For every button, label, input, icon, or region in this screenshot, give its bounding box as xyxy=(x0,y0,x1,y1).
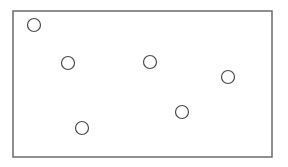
circles-group xyxy=(28,19,235,135)
circle-node-4 xyxy=(222,71,235,84)
circle-node-5 xyxy=(176,106,189,119)
circle-node-6 xyxy=(76,122,89,135)
circle-node-3 xyxy=(144,56,157,69)
circle-node-2 xyxy=(62,57,75,70)
diagram-canvas xyxy=(0,0,288,167)
frame-rectangle xyxy=(13,11,272,157)
circle-node-1 xyxy=(28,19,41,32)
